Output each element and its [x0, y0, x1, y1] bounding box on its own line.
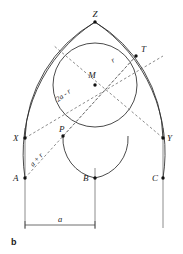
dashed-line-P-to-T: [63, 56, 136, 136]
figure-caption: b: [11, 237, 17, 247]
ogive-arc-right: [95, 22, 163, 138]
label-two-a-minus-r: 2a - r: [54, 86, 73, 103]
point-dot-A: [23, 176, 26, 179]
cusp-arc-right: [95, 136, 128, 178]
cusp-arc-left: [63, 136, 95, 178]
label-Y: Y: [167, 133, 173, 143]
label-M: M: [87, 70, 96, 80]
figure-container: Z T M X Y P A B C r 2a - r a + r a b: [0, 0, 183, 254]
point-dot-M: [93, 83, 96, 86]
label-a-plus-r: a + r: [28, 151, 45, 169]
label-A: A: [12, 173, 19, 183]
inner-arc-right: [95, 22, 165, 178]
label-C: C: [152, 173, 159, 183]
label-X: X: [12, 133, 19, 143]
point-dot-T: [134, 54, 137, 57]
label-radius-r: r: [109, 56, 117, 65]
point-dot-B: [93, 176, 96, 179]
label-P: P: [58, 124, 65, 134]
point-dot-Y: [161, 136, 164, 139]
label-Z: Z: [92, 9, 98, 19]
ogive-arch-diagram: Z T M X Y P A B C r 2a - r a + r a b: [0, 0, 183, 254]
ogive-arc-left: [25, 22, 95, 138]
label-T: T: [141, 44, 147, 54]
point-dot-P: [61, 134, 64, 137]
point-dot-C: [161, 176, 164, 179]
point-dot-Z: [93, 20, 96, 23]
label-span-a: a: [58, 214, 62, 224]
label-B: B: [83, 173, 89, 183]
point-dot-X: [23, 136, 26, 139]
dashed-line-X-to-T: [25, 56, 163, 138]
